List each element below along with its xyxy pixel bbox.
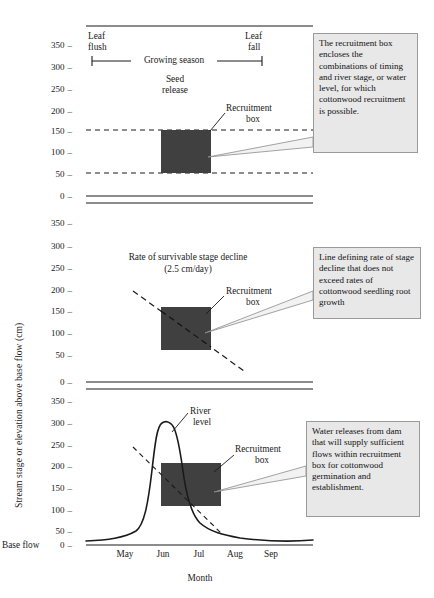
seed-release-line2: release <box>140 85 210 96</box>
y-tick-bot-300: 300– <box>26 418 72 428</box>
month-label-jul: Jul <box>182 549 216 559</box>
y-axis-title: Stream stage or elevation above base flo… <box>14 323 24 508</box>
panel-top-graphics <box>86 26 313 196</box>
rate-of-decline-value: (2.5 cm/day) <box>108 264 268 275</box>
recruitment-box-label-top-line2: box <box>246 114 260 125</box>
y-tick-mid-100: 100– <box>26 328 72 338</box>
y-tick-bot-100: 100– <box>26 505 72 515</box>
recruitment-box-top <box>161 130 211 173</box>
y-tick-mid-150: 150– <box>26 306 72 316</box>
callout-bottom: Water releases from dam that will supply… <box>306 421 420 517</box>
leaf-flush-line2: flush <box>88 42 107 53</box>
river-level-label-line2: level <box>193 417 211 428</box>
month-label-aug: Aug <box>218 549 252 559</box>
month-label-jun: Jun <box>146 549 180 559</box>
panel-middle-graphics <box>86 291 313 382</box>
growing-season-label: Growing season <box>129 55 219 66</box>
y-tick-bot-150: 150– <box>26 483 72 493</box>
y-tick-mid-200: 200– <box>26 285 72 295</box>
callout-middle: Line defining rate of stage decline that… <box>313 247 421 319</box>
base-flow-label: Base flow <box>2 540 39 551</box>
callout-leader-bottom <box>214 466 306 492</box>
y-tick-bot-350: 350– <box>26 396 72 406</box>
month-label-may: May <box>108 549 142 559</box>
leader-recruitment-middle <box>206 296 224 314</box>
month-label-sep: Sep <box>254 549 288 559</box>
callout-top: The recruitment box encloses the combina… <box>313 33 418 153</box>
recruitment-box-label-mid-line1: Recruitment <box>226 286 272 297</box>
callout-leader-top <box>208 137 313 157</box>
y-tick-top-350: 350– <box>26 40 72 50</box>
y-tick-mid-0: 0– <box>26 377 72 387</box>
y-tick-top-200: 200– <box>26 106 72 116</box>
y-tick-bot-50: 50– <box>26 526 72 536</box>
leaf-fall-line2: fall <box>248 42 260 53</box>
y-tick-mid-250: 250– <box>26 263 72 273</box>
y-tick-mid-350: 350– <box>26 218 72 228</box>
y-tick-top-50: 50– <box>26 169 72 179</box>
y-tick-top-0: 0– <box>26 191 72 201</box>
river-level-label-line1: River <box>190 406 211 417</box>
leader-river-level <box>172 413 188 432</box>
y-tick-bot-250: 250– <box>26 440 72 450</box>
recruitment-box-label-bot-line2: box <box>255 455 269 466</box>
figure-canvas: Stream stage or elevation above base flo… <box>0 0 434 598</box>
leaf-flush-line1: Leaf <box>88 31 105 42</box>
panel-bottom-graphics <box>86 413 313 545</box>
y-tick-top-150: 150– <box>26 126 72 136</box>
y-tick-mid-50: 50– <box>26 350 72 360</box>
x-axis-title: Month <box>150 573 250 584</box>
y-tick-top-100: 100– <box>26 147 72 157</box>
rate-of-decline-title: Rate of survivable stage decline <box>108 252 268 263</box>
y-tick-mid-300: 300– <box>26 241 72 251</box>
y-tick-top-300: 300– <box>26 62 72 72</box>
y-tick-bot-200: 200– <box>26 461 72 471</box>
y-tick-top-250: 250– <box>26 84 72 94</box>
leader-recruitment-top <box>210 113 225 131</box>
recruitment-box-label-top-line1: Recruitment <box>226 103 272 114</box>
seed-release-line1: Seed <box>140 74 210 85</box>
recruitment-box-label-bot-line1: Recruitment <box>235 444 281 455</box>
leaf-fall-line1: Leaf <box>245 31 262 42</box>
recruitment-box-bottom <box>161 463 221 506</box>
recruitment-box-label-mid-line2: box <box>246 297 260 308</box>
